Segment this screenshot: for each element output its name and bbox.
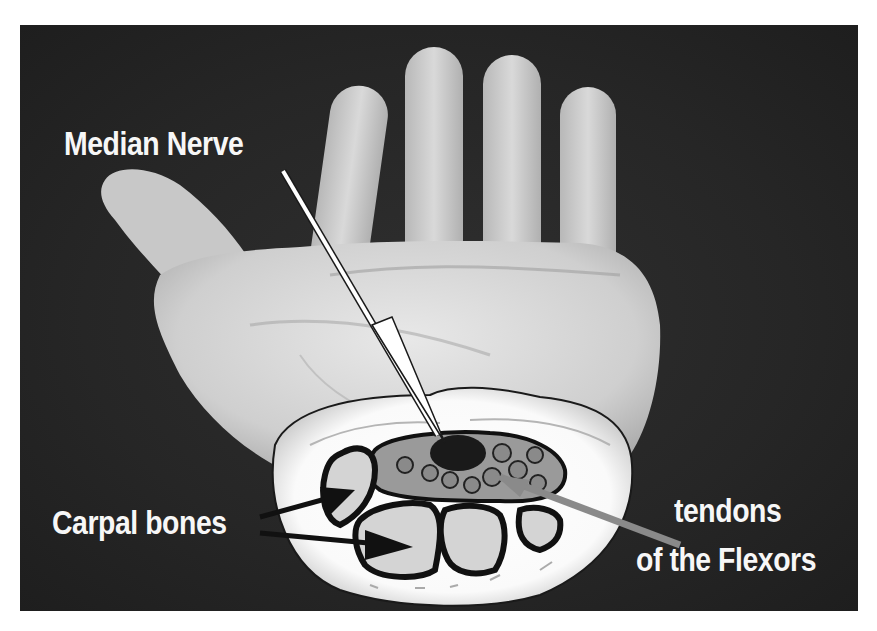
flexor-tendons-label-line2: of the Flexors [636, 541, 816, 579]
flexor-tendons-label-line1: tendons [674, 492, 781, 530]
carpal-bones-label: Carpal bones [52, 504, 227, 542]
median-nerve-label: Median Nerve [64, 125, 243, 163]
figure-panel: Median Nerve Carpal bones tendons of the… [20, 25, 858, 611]
